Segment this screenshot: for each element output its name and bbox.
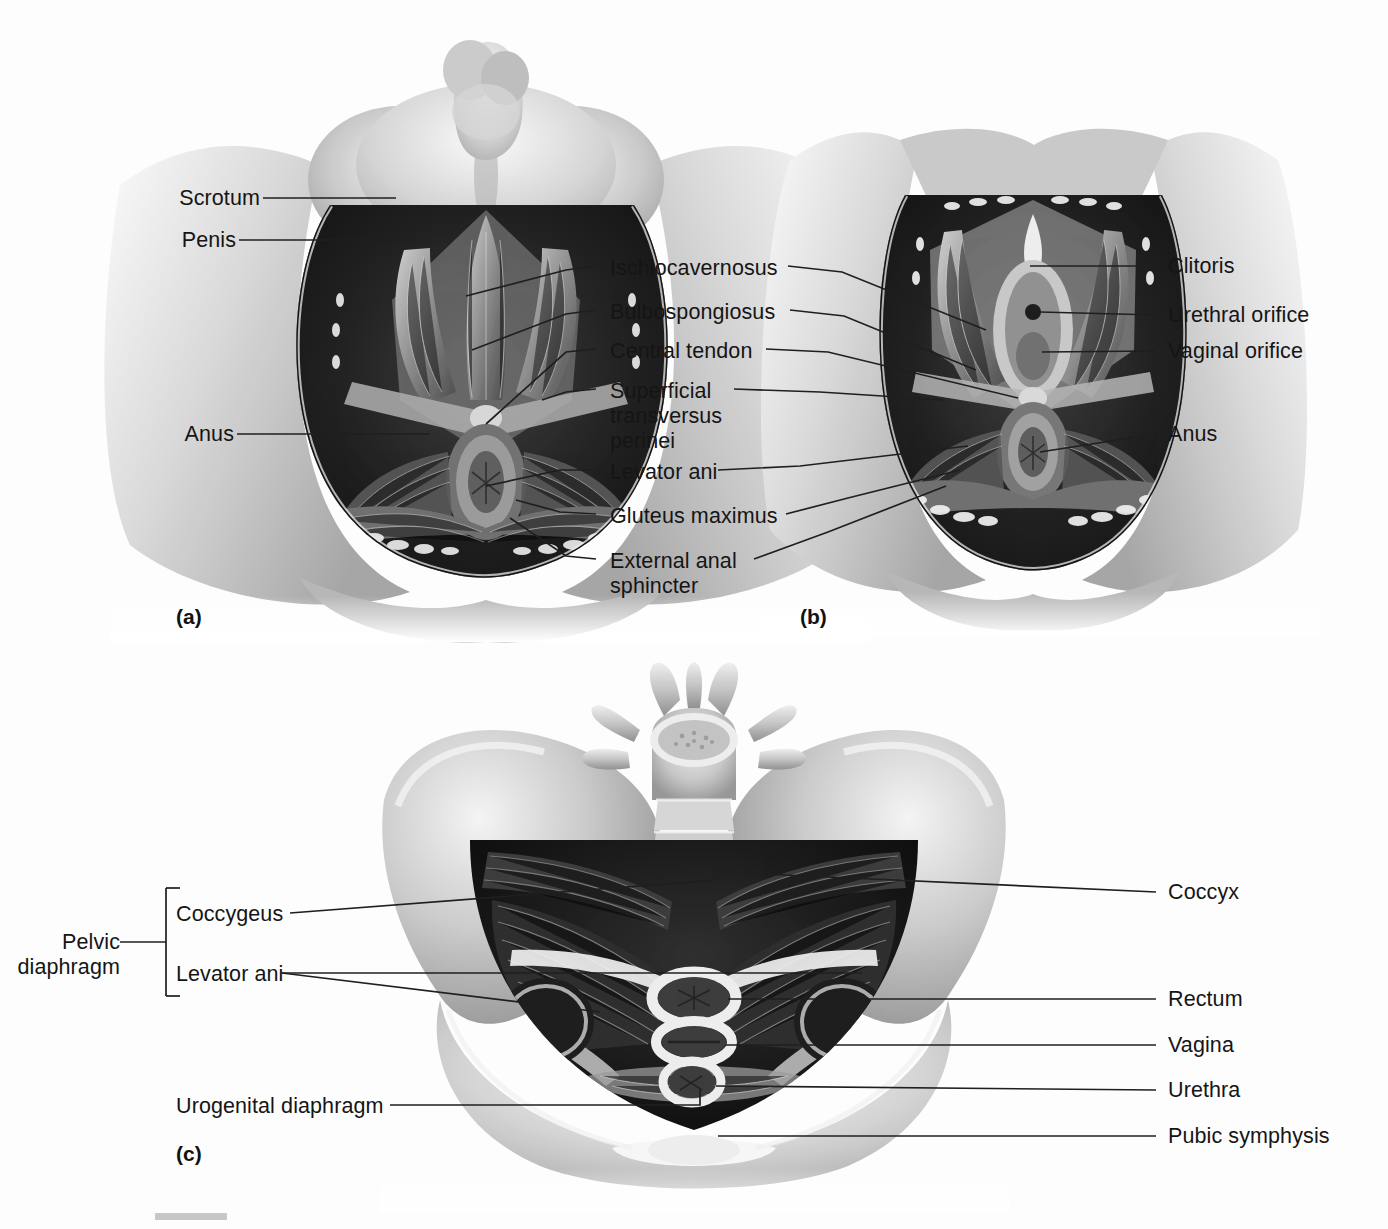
label-coccygeus: Coccygeus xyxy=(176,902,283,927)
label-pelvic-diaphragm: Pelvicdiaphragm xyxy=(0,930,120,980)
label-anus-b: Anus xyxy=(1168,422,1217,447)
pelvic-diaphragm-line-1: Pelvic xyxy=(62,930,120,954)
stp-line-3: perinei xyxy=(610,429,675,453)
eas-line-2: sphincter xyxy=(610,574,698,598)
label-anus-a: Anus xyxy=(60,422,234,447)
label-external-anal-sphincter: External analsphincter xyxy=(610,549,737,599)
label-clitoris: Clitoris xyxy=(1168,254,1235,279)
label-coccyx: Coccyx xyxy=(1168,880,1239,905)
label-central-tendon: Central tendon xyxy=(610,339,752,364)
pelvic-diaphragm-line-2: diaphragm xyxy=(18,955,121,979)
label-urethral-orifice: Urethral orifice xyxy=(1168,303,1309,328)
label-penis: Penis xyxy=(60,228,236,253)
panel-marker-a: (a) xyxy=(176,605,202,629)
label-vagina: Vagina xyxy=(1168,1033,1234,1058)
panel-marker-c: (c) xyxy=(176,1142,202,1166)
label-urogenital-diaphragm: Urogenital diaphragm xyxy=(176,1094,384,1119)
label-scrotum: Scrotum xyxy=(60,186,260,211)
stp-line-1: Superficial xyxy=(610,379,711,403)
eas-line-1: External anal xyxy=(610,549,737,573)
label-superficial-transversus-perinei: Superficialtransversusperinei xyxy=(610,379,722,454)
label-gluteus-maximus: Gluteus maximus xyxy=(610,504,778,529)
scan-artifact xyxy=(155,1213,227,1220)
label-ischiocavernosus: Ischiocavernosus xyxy=(610,256,778,281)
label-bulbospongiosus: Bulbospongiosus xyxy=(610,300,775,325)
label-levator-ani-c: Levator ani xyxy=(176,962,283,987)
anatomy-figure: Scrotum Penis Anus Ischiocavernosus Bulb… xyxy=(0,0,1388,1229)
label-rectum: Rectum xyxy=(1168,987,1243,1012)
label-levator-ani-a: Levator ani xyxy=(610,460,717,485)
label-vaginal-orifice: Vaginal orifice xyxy=(1168,339,1303,364)
panel-marker-b: (b) xyxy=(800,605,827,629)
stp-line-2: transversus xyxy=(610,404,722,428)
label-pubic-symphysis: Pubic symphysis xyxy=(1168,1124,1330,1149)
label-urethra: Urethra xyxy=(1168,1078,1240,1103)
